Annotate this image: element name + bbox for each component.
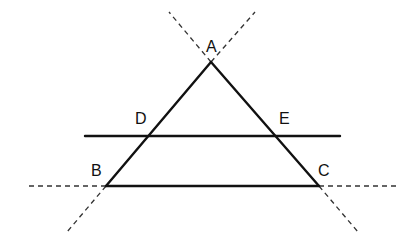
label-E: E bbox=[279, 110, 290, 127]
dashed-ba-extended-above-a bbox=[169, 12, 211, 62]
solid-lines bbox=[85, 62, 340, 186]
label-B: B bbox=[91, 162, 102, 179]
triangle-diagram: A B C D E bbox=[0, 0, 418, 250]
label-A: A bbox=[206, 38, 217, 55]
label-C: C bbox=[318, 162, 330, 179]
diagram-svg: A B C D E bbox=[0, 0, 418, 250]
dashed-ca-extended-above-a bbox=[211, 12, 255, 62]
dashed-ac-extended-below-c bbox=[319, 186, 358, 232]
segment-ac bbox=[211, 62, 319, 186]
label-D: D bbox=[135, 110, 147, 127]
segment-ab bbox=[106, 62, 211, 186]
dashed-ab-extended-below-b bbox=[67, 186, 106, 232]
